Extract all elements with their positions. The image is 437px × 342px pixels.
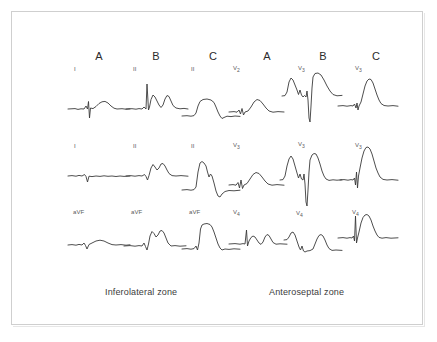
lead-label-left-r0c2: II — [191, 66, 195, 72]
column-header-b-left: B — [148, 50, 164, 62]
column-header-c-right: C — [368, 50, 384, 62]
ecg-trace-left-r1c1 — [126, 155, 188, 197]
panel-inferolateral: A B C I II II I II II — [0, 0, 225, 342]
lead-label-left-r0c0: I — [74, 66, 76, 72]
ecg-trace-right-r2c1 — [284, 218, 342, 266]
lead-label-right-r0c0: V2 — [233, 65, 240, 71]
lead-subscript: 3 — [237, 144, 240, 150]
caption-anteroseptal: Anteroseptal zone — [269, 287, 344, 297]
ecg-trace-right-r0c2 — [338, 70, 398, 122]
lead-label-left-r0c1: II — [133, 66, 137, 72]
lead-label-right-r2c1: V4 — [296, 210, 303, 216]
ecg-trace-left-r2c1 — [124, 222, 186, 264]
lead-subscript: 4 — [300, 212, 303, 218]
ecg-trace-right-r2c2 — [338, 208, 398, 258]
lead-label-left-r2c1: aVF — [131, 209, 142, 215]
lead-label-left-r2c0: aVF — [73, 209, 84, 215]
lead-label-left-r2c2: aVF — [189, 209, 200, 215]
lead-label-left-r1c0: I — [74, 143, 76, 149]
lead-label-right-r1c0: V3 — [233, 142, 240, 148]
caption-inferolateral: Inferolateral zone — [105, 287, 177, 297]
column-header-a-left: A — [91, 50, 107, 62]
panel-anteroseptal: A B C V2 V3 V3 V3 — [218, 0, 437, 342]
ecg-trace-right-r0c1 — [282, 66, 342, 128]
column-header-b-right: B — [315, 50, 331, 62]
ecg-figure: A B C I II II I II II — [0, 0, 437, 342]
ecg-trace-left-r2c0 — [68, 228, 130, 262]
ecg-trace-right-r0c0 — [229, 82, 284, 122]
column-header-a-right: A — [259, 50, 275, 62]
ecg-trace-right-r2c0 — [229, 216, 287, 258]
ecg-trace-left-r1c0 — [68, 160, 130, 196]
lead-label-left-r1c2: II — [191, 143, 195, 149]
lead-label-right-r2c0: V4 — [233, 209, 240, 215]
lead-label-left-r1c1: II — [133, 143, 137, 149]
ecg-trace-left-r0c1 — [126, 74, 188, 122]
ecg-trace-right-r1c2 — [340, 142, 398, 202]
ecg-trace-right-r1c1 — [280, 146, 342, 212]
lead-subscript: 2 — [237, 67, 240, 73]
ecg-trace-left-r0c0 — [68, 80, 130, 122]
ecg-trace-right-r1c0 — [229, 155, 284, 197]
